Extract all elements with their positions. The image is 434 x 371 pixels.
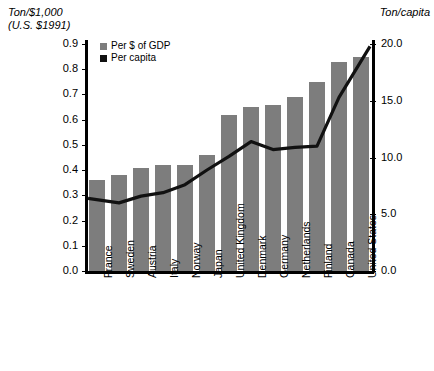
- right-axis-title: Ton/capita: [380, 6, 430, 19]
- legend-label-gdp: Per $ of GDP: [111, 40, 170, 52]
- category-label: Sweden: [124, 240, 136, 278]
- left-tick-label: 0.2: [34, 214, 78, 226]
- category-label: Japan: [212, 249, 224, 278]
- left-tick-label: 0.7: [34, 87, 78, 99]
- legend-item-per-dollar-gdp: Per $ of GDP: [100, 40, 170, 52]
- right-tick-label: 20.0: [381, 37, 402, 49]
- category-label: Canada: [344, 241, 356, 278]
- category-label: Finland: [322, 244, 334, 278]
- left-tick-label: 0.6: [34, 113, 78, 125]
- right-tick-mark: [370, 44, 376, 45]
- left-tick-mark: [82, 145, 88, 146]
- right-tick-label: 15.0: [381, 94, 402, 106]
- legend-item-per-capita: Per capita: [100, 52, 170, 64]
- left-axis-line: [85, 40, 88, 272]
- left-tick-mark: [82, 195, 88, 196]
- left-tick-mark: [82, 246, 88, 247]
- left-tick-mark: [82, 271, 88, 272]
- category-label: Germany: [278, 235, 290, 278]
- right-tick-label: 5.0: [381, 207, 396, 219]
- left-tick-mark: [82, 170, 88, 171]
- legend-swatch-icon-capita: [100, 55, 107, 62]
- left-tick-mark: [82, 94, 88, 95]
- category-label: Italy: [168, 259, 180, 278]
- category-label: Denmark: [256, 235, 268, 278]
- category-label: Netherlands: [300, 221, 312, 278]
- left-tick-label: 0.0: [34, 264, 78, 276]
- bar: [331, 62, 346, 271]
- left-tick-label: 0.4: [34, 163, 78, 175]
- legend-swatch-icon-gdp: [100, 43, 107, 50]
- right-tick-mark: [370, 101, 376, 102]
- legend-label-capita: Per capita: [111, 52, 156, 64]
- right-tick-label: 0.0: [381, 264, 396, 276]
- left-tick-label: 0.9: [34, 37, 78, 49]
- category-label: France: [102, 245, 114, 278]
- left-tick-mark: [82, 120, 88, 121]
- left-axis-title: Ton/$1,000 (U.S. $1991): [8, 6, 70, 32]
- left-tick-mark: [82, 69, 88, 70]
- left-tick-mark: [82, 44, 88, 45]
- line-series-per-capita: [0, 0, 434, 371]
- chart-container: Ton/$1,000 (U.S. $1991) Ton/capita Per $…: [0, 0, 434, 371]
- category-label: United States: [366, 215, 378, 278]
- right-tick-mark: [370, 158, 376, 159]
- left-tick-mark: [82, 221, 88, 222]
- left-tick-label: 0.3: [34, 188, 78, 200]
- left-tick-label: 0.1: [34, 239, 78, 251]
- left-tick-label: 0.8: [34, 62, 78, 74]
- left-tick-label: 0.5: [34, 138, 78, 150]
- category-label: Austria: [146, 245, 158, 278]
- category-label: United Kingdom: [234, 203, 246, 278]
- chart-legend: Per $ of GDP Per capita: [100, 40, 170, 64]
- right-tick-label: 10.0: [381, 151, 402, 163]
- category-label: Norway: [190, 242, 202, 278]
